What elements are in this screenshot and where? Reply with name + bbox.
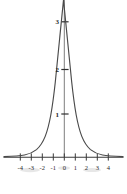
y-tick-label-2: 2 [56,66,60,74]
x-tick-label-neg1: -1 [51,164,56,171]
curve-series-peaked-bell [4,0,123,157]
x-tick-label-neg4: -4 [18,164,24,171]
x-tick-label-4: 4 [107,164,111,171]
x-tick-label-2: 2 [85,164,88,171]
x-tick-label-3: 3 [96,164,99,171]
y-tick-label-3: 3 [56,18,60,26]
y-tick-label-1: 1 [56,111,60,119]
x-tick-label-neg3: -3 [29,164,34,171]
x-tick-label-1: 1 [74,164,77,171]
plot-canvas: -4 -3 -2 -1 0 1 2 3 4 1 2 3 [0,0,127,194]
chart-figure: -4 -3 -2 -1 0 1 2 3 4 1 2 3 [0,0,127,194]
x-tick-label-zero: 0 [63,164,66,171]
x-tick-label-neg2: -2 [40,164,45,171]
